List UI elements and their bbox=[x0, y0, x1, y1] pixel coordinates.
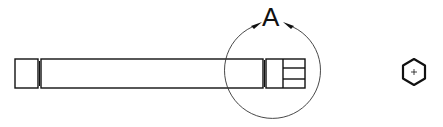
hex-section bbox=[266, 59, 305, 88]
end-view bbox=[403, 59, 425, 85]
arrow-left-icon bbox=[251, 22, 262, 29]
main-shaft bbox=[41, 59, 263, 88]
detail-callout bbox=[225, 22, 321, 118]
technical-drawing bbox=[0, 0, 443, 127]
arrow-right-icon bbox=[283, 22, 294, 29]
detail-circle bbox=[225, 27, 321, 118]
detail-label: A bbox=[262, 4, 279, 30]
left-end-cap bbox=[15, 59, 38, 88]
side-view bbox=[15, 59, 305, 88]
